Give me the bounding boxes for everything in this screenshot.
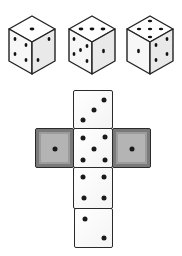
cube-icon <box>67 14 117 76</box>
die-2 <box>67 14 117 76</box>
die-1 <box>7 14 57 76</box>
net-face-bottom <box>74 208 113 248</box>
net-face-right <box>112 128 151 168</box>
net-face-below-center <box>73 167 113 209</box>
cube-icon <box>125 14 175 76</box>
net-face-center <box>73 128 113 168</box>
net-face-left <box>35 128 74 168</box>
net-face-top <box>73 90 113 129</box>
cube-icon <box>7 14 57 76</box>
die-3 <box>125 14 175 76</box>
